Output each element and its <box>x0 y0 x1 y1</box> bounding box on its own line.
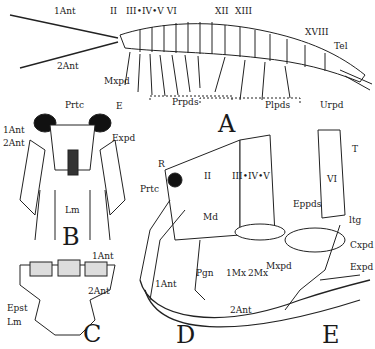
label-d-segment-ii: II <box>204 172 211 181</box>
label-a-pleopods: Plpds <box>265 101 290 110</box>
label-d-segments-iii-v: III•IV•V <box>232 172 270 181</box>
label-a-segment-xiii: XIII <box>235 7 252 16</box>
label-a-uropod: Urpd <box>320 101 343 110</box>
label-d-protocephalon: Prtc <box>140 185 159 194</box>
panel-letter-b: B <box>62 225 80 249</box>
label-e-segment-vi: VI <box>327 175 337 184</box>
label-b-2ant: 2Ant <box>3 139 25 148</box>
label-a-segments-iii-vi: III•IV•V VI <box>126 7 177 16</box>
label-d-maxilliped: Mxpd <box>266 262 292 271</box>
label-d-2ant: 2Ant <box>230 306 252 315</box>
label-d-2nd-maxilla: 2Mx <box>248 269 268 278</box>
label-d-1st-maxilla: 1Mx <box>226 269 246 278</box>
panel-letter-d: D <box>176 323 195 347</box>
label-a-maxilliped: Mxpd <box>104 77 130 86</box>
label-b-1ant: 1Ant <box>3 126 25 135</box>
label-a-2ant: 2Ant <box>57 62 79 71</box>
label-d-1ant: 1Ant <box>155 280 177 289</box>
amphipod-anatomy-drawing <box>0 0 375 349</box>
label-d-rostrum: R <box>158 160 165 169</box>
label-b-labrum: Lm <box>65 206 80 215</box>
label-e-tergum: T <box>352 145 358 154</box>
label-e-coxopodite: Cxpd <box>350 241 373 250</box>
label-a-segment-ii: II <box>110 7 117 16</box>
label-c-labrum: Lm <box>7 318 22 327</box>
label-a-telson: Tel <box>334 42 348 51</box>
label-d-mandible: Md <box>203 213 218 222</box>
label-d-paragnath: Pgn <box>196 269 214 278</box>
panel-letter-a: A <box>218 112 235 136</box>
label-a-1ant: 1Ant <box>54 7 76 16</box>
panel-letter-e: E <box>322 323 340 347</box>
label-a-segment-xviii: XVIII <box>305 28 329 37</box>
label-b-exopodite: Expd <box>112 134 135 143</box>
label-a-pereiopods: Prpds <box>172 98 199 107</box>
label-a-segment-xii: XII <box>215 7 229 16</box>
label-e-exopodite: Expd <box>350 263 373 272</box>
panel-letter-c: C <box>83 322 101 346</box>
label-b-protocephalon: Prtc <box>65 101 84 110</box>
label-e-laterotergite: ltg <box>349 216 361 225</box>
label-e-epipodites: Eppds <box>293 200 321 209</box>
label-b-eye: E <box>116 102 123 111</box>
label-c-1ant: 1Ant <box>92 252 114 261</box>
panel-b-head-ventral <box>20 114 125 240</box>
label-c-epistome: Epst <box>7 304 28 313</box>
label-c-2ant: 2Ant <box>88 287 110 296</box>
